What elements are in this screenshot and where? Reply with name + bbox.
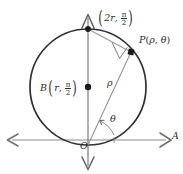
- p-point-label: P(ρ, θ): [139, 35, 170, 45]
- point-p: [128, 49, 135, 56]
- origin-label: O: [80, 141, 88, 151]
- b-angle-denominator: 2: [65, 88, 71, 96]
- center-point-b: [85, 84, 91, 90]
- b-angle-fraction: π2: [65, 81, 71, 97]
- top-point-label: (2r, π2): [97, 11, 134, 27]
- polar-axis-label: A: [172, 131, 179, 141]
- circle-top-point: [85, 26, 91, 32]
- top-point-angle-denominator: 2: [121, 18, 127, 26]
- top-point-radius: 2r: [104, 12, 115, 23]
- top-point-angle-numerator: π: [121, 11, 127, 18]
- right-angle-marker: [112, 43, 127, 59]
- b-angle-numerator: π: [65, 81, 71, 88]
- diagram-canvas: [0, 0, 183, 174]
- rho-segment-label: ρ: [107, 78, 113, 88]
- top-point-angle-fraction: π2: [121, 11, 127, 27]
- theta-angle-label: θ: [110, 114, 116, 124]
- b-point-name: B: [40, 82, 47, 93]
- p-point-close-paren: ): [167, 34, 171, 45]
- polar-circle-diagram: (2r, π2) P(ρ, θ) B(r, π2) ρ θ O A: [0, 0, 183, 174]
- b-center-label: B(r, π2): [40, 81, 78, 97]
